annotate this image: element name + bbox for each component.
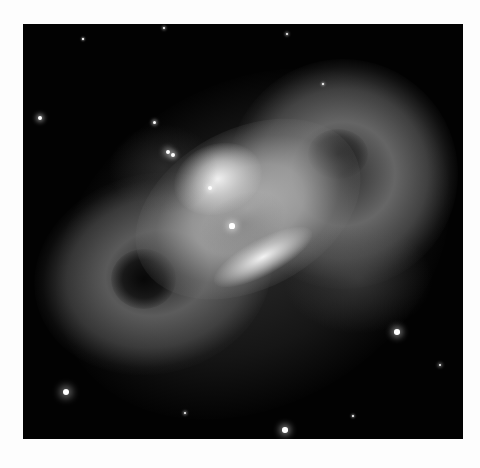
star — [229, 223, 234, 228]
lower-right-wisps — [283, 224, 433, 334]
lower-bright-ridge — [206, 215, 320, 298]
star — [153, 121, 156, 124]
star — [184, 412, 186, 414]
central-body — [104, 82, 391, 336]
star — [439, 364, 442, 367]
lower-left-lobe — [23, 146, 295, 401]
upper-bright-knot — [164, 131, 273, 228]
star — [82, 38, 84, 40]
star — [286, 33, 288, 35]
lower-left-cavity — [111, 249, 176, 309]
star — [394, 329, 400, 335]
star — [38, 116, 42, 120]
star — [166, 150, 171, 155]
upper-right-cavity — [308, 129, 368, 179]
star — [352, 415, 354, 417]
inner-core-shadow — [190, 178, 297, 270]
star — [171, 153, 175, 157]
nebula-image — [23, 24, 463, 439]
outer-halo — [23, 24, 463, 439]
star — [163, 27, 165, 29]
star — [282, 427, 288, 433]
star — [63, 389, 69, 395]
upper-right-lobe — [228, 59, 458, 289]
star — [208, 186, 212, 190]
left-wisps — [108, 124, 218, 214]
star — [322, 83, 324, 85]
